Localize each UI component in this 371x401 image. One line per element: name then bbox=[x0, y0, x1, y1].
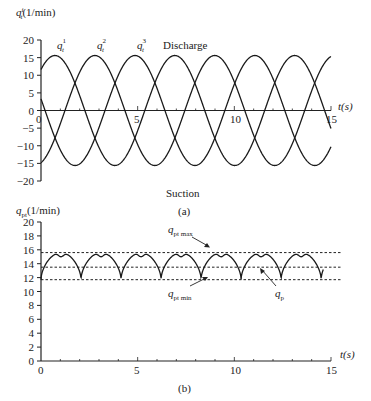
figure: qit(1/min) 20151050−5−10−15−20 0 5 10 15… bbox=[0, 0, 371, 401]
panel-a-series-labels: q1tq2tq3t bbox=[57, 37, 147, 54]
suction-label: Suction bbox=[166, 187, 200, 199]
y-tick-label: 4 bbox=[29, 327, 35, 339]
panel-a: qit(1/min) 20151050−5−10−15−20 0 5 10 15… bbox=[16, 6, 353, 218]
qpt-max-arrow bbox=[192, 237, 208, 246]
panel-b-reference-lines bbox=[41, 253, 342, 280]
y-tick-label: −5 bbox=[22, 122, 34, 134]
panel-a-ylabel: qit(1/min) bbox=[16, 6, 56, 21]
y-tick-label: 10 bbox=[23, 286, 35, 298]
y-tick-label: 12 bbox=[23, 272, 34, 284]
panel-a-xlabel: t(s) bbox=[338, 100, 353, 113]
panel-b-xlabel: t(s) bbox=[340, 348, 355, 361]
qpt-max-arrowhead bbox=[204, 243, 210, 248]
qp-arrow bbox=[262, 270, 276, 286]
panel-a-xtick-5: 5 bbox=[134, 113, 140, 125]
y-tick-label: −10 bbox=[17, 140, 35, 152]
y-tick-label: 6 bbox=[29, 313, 35, 325]
qpt-min-label: qpt min bbox=[168, 287, 192, 302]
y-tick-label: 0 bbox=[29, 355, 35, 367]
panel-b-caption: (b) bbox=[178, 382, 191, 395]
panel-b-y-ticks: 20181614121086420 bbox=[23, 216, 41, 367]
y-tick-label: 2 bbox=[29, 341, 35, 353]
qpt-max-label: qpt max bbox=[168, 223, 193, 238]
y-tick-label: −20 bbox=[17, 175, 35, 187]
y-tick-label: 18 bbox=[23, 230, 35, 242]
qpt-min-arrowhead bbox=[202, 277, 208, 281]
panel-b-xtick-5: 5 bbox=[134, 364, 140, 376]
panel-b-xtick-15: 15 bbox=[326, 364, 338, 376]
y-tick-label: 10 bbox=[23, 69, 35, 81]
qp-label: qp bbox=[275, 287, 285, 302]
panel-a-xtick-0: 0 bbox=[36, 113, 42, 125]
y-tick-label: 14 bbox=[23, 258, 35, 270]
panel-a-caption: (a) bbox=[178, 205, 191, 218]
panel-b-xtick-0: 0 bbox=[38, 364, 44, 376]
series-label-q3: q3t bbox=[137, 37, 147, 54]
panel-a-x-ticks bbox=[60, 106, 331, 111]
qpt-min-arrow bbox=[190, 278, 206, 286]
y-tick-label: 0 bbox=[29, 105, 35, 117]
panel-b-xtick-10: 10 bbox=[230, 364, 242, 376]
y-tick-label: 20 bbox=[23, 216, 35, 228]
panel-a-xtick-10: 10 bbox=[230, 113, 242, 125]
panel-a-y-ticks: 20151050−5−10−15−20 bbox=[17, 34, 41, 187]
y-tick-label: −15 bbox=[17, 157, 35, 169]
y-tick-label: 20 bbox=[23, 34, 35, 46]
y-tick-label: 8 bbox=[29, 299, 35, 311]
discharge-label: Discharge bbox=[163, 39, 208, 51]
y-tick-label: 15 bbox=[23, 52, 35, 64]
y-tick-label: 16 bbox=[23, 244, 35, 256]
panel-b: qpt(1/min) 20181614121086420 0 5 10 15 t… bbox=[16, 204, 355, 395]
series-label-q1: q1t bbox=[57, 37, 67, 54]
y-tick-label: 5 bbox=[29, 87, 35, 99]
series-label-q2: q2t bbox=[97, 37, 107, 54]
